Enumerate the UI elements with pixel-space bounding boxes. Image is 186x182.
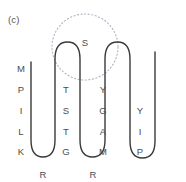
residue-label: G xyxy=(97,106,109,116)
residue-label: T xyxy=(60,127,72,137)
peptide-chain-diagram xyxy=(0,0,186,182)
residue-label: L xyxy=(15,127,27,137)
residue-label: Y xyxy=(97,85,109,95)
chain-backbone-path xyxy=(31,42,155,158)
residue-label: I xyxy=(15,106,27,116)
residue-label: P xyxy=(134,147,146,157)
residue-label: Y xyxy=(134,106,146,116)
residue-label: M xyxy=(15,64,27,74)
residue-label: A xyxy=(97,127,109,137)
residue-label: S xyxy=(60,106,72,116)
residue-label: G xyxy=(60,147,72,157)
residue-label: P xyxy=(15,85,27,95)
figure-panel: (c) M P I L K R G T S T S Y G A M R Y I … xyxy=(0,0,186,182)
residue-label: I xyxy=(134,127,146,137)
residue-label: T xyxy=(60,85,72,95)
residue-label: R xyxy=(37,170,49,180)
panel-label: (c) xyxy=(8,14,20,25)
residue-label: M xyxy=(97,147,109,157)
residue-label: K xyxy=(15,147,27,157)
residue-label: R xyxy=(87,170,99,180)
residue-label: S xyxy=(79,38,91,48)
